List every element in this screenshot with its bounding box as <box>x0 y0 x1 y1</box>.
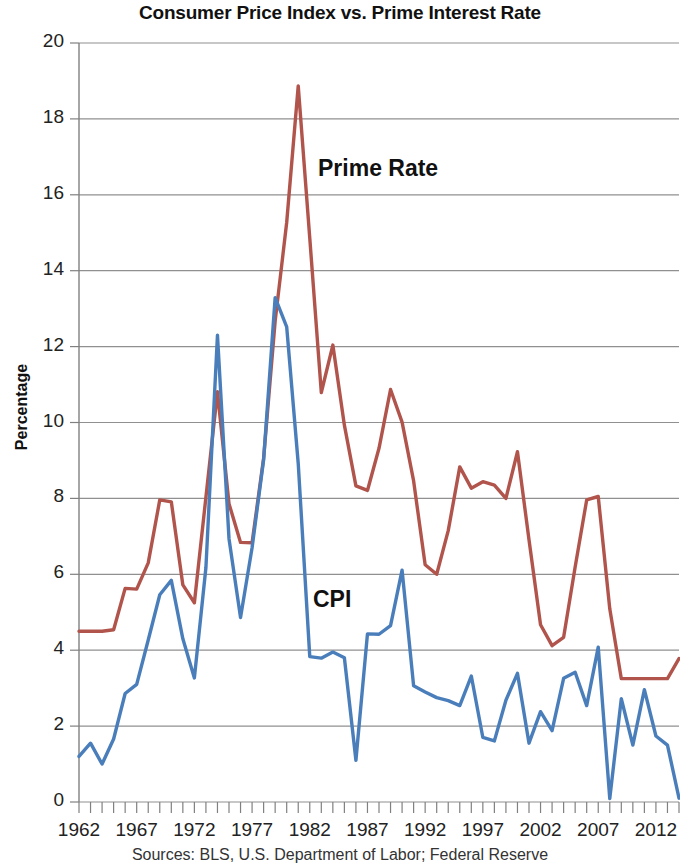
chart-caption: Sources: BLS, U.S. Department of Labor; … <box>0 846 680 864</box>
series-line-cpi <box>79 298 679 799</box>
series-label-cpi: CPI <box>313 586 351 613</box>
series-lines <box>79 86 679 799</box>
series-label-prime-rate: Prime Rate <box>318 155 438 182</box>
x-axis-ticks <box>79 802 679 813</box>
